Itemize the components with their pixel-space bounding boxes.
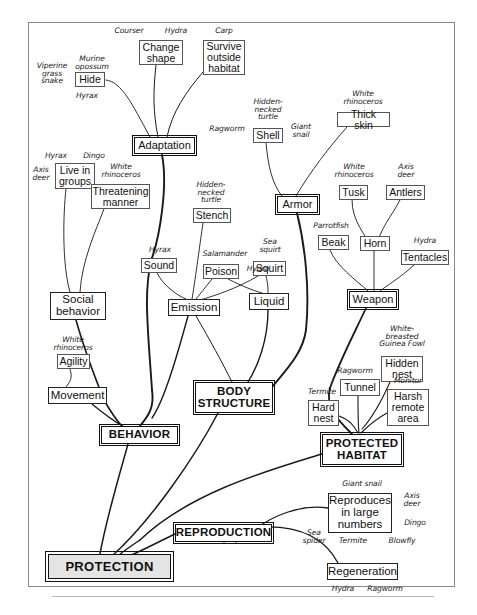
ann-hydra-tentacles: Hydra <box>407 237 443 245</box>
node-reproduces[interactable]: Reproduces in large numbers <box>328 493 392 533</box>
node-antlers[interactable]: Antlers <box>386 185 425 200</box>
ann-white-rhino-thick: White rhinoceros <box>332 90 394 105</box>
footer-divider <box>52 596 434 597</box>
ann-hyrax-sound: Hyrax <box>142 246 178 254</box>
node-adaptation[interactable]: Adaptation <box>134 137 195 154</box>
node-agility[interactable]: Agility <box>57 354 90 369</box>
ann-axis-deer-groups: Axis deer <box>28 166 54 181</box>
node-behavior[interactable]: BEHAVIOR <box>101 426 178 444</box>
ann-axis-deer-antlers: Axis deer <box>393 163 419 178</box>
node-regeneration[interactable]: Regeneration <box>327 563 398 580</box>
ann-giant-snail-rep: Giant snail <box>334 480 390 488</box>
ann-viperine: Viperine grass snake <box>32 62 72 85</box>
node-live-in-groups[interactable]: Live in groups <box>55 163 95 189</box>
ann-sea-spider: Sea spider <box>297 529 331 544</box>
ann-hydra-top: Hydra <box>158 27 194 35</box>
ann-dingo-rep: Dingo <box>397 519 433 527</box>
node-change-shape[interactable]: Change shape <box>139 40 183 65</box>
ann-ragworm-regen: Ragworm <box>361 585 409 593</box>
ann-hidden-necked-turtle-1: Hidden- necked turtle <box>245 98 291 121</box>
ann-ragworm-shell: Ragworm <box>203 125 251 133</box>
node-thick-skin[interactable]: Thick skin <box>337 112 390 127</box>
node-liquid[interactable]: Liquid <box>249 293 289 310</box>
ann-courser: Courser <box>108 27 150 35</box>
node-movement[interactable]: Movement <box>48 387 107 404</box>
node-beak[interactable]: Beak <box>318 235 349 250</box>
node-reproduction[interactable]: REPRODUCTION <box>175 524 272 542</box>
node-sound[interactable]: Sound <box>141 258 177 273</box>
ann-carp: Carp <box>208 27 240 35</box>
diagram-page: PROTECTIONBEHAVIORBODY STRUCTUREPROTECTE… <box>0 0 477 615</box>
ann-termite-hard: Termite <box>302 388 342 396</box>
node-emission[interactable]: Emission <box>168 299 220 316</box>
node-hide[interactable]: Hide <box>75 72 105 87</box>
node-hard-nest[interactable]: Hard nest <box>308 400 339 426</box>
ann-hyrax-hide: Hyrax <box>69 92 105 100</box>
ann-giant-snail-shell: Giant snail <box>285 123 317 138</box>
ann-blowfly: Blowfly <box>382 537 422 545</box>
ann-termite-rep: Termite <box>333 537 373 545</box>
node-tusk[interactable]: Tusk <box>339 185 368 200</box>
ann-white-rhino-agility: White rhinoceros <box>42 336 104 351</box>
ann-dingo-groups: Dingo <box>76 152 112 160</box>
node-shell[interactable]: Shell <box>253 128 283 143</box>
ann-parrotfish: Parrotfish <box>306 222 356 230</box>
ann-axis-deer-rep: Axis deer <box>398 492 426 507</box>
ann-hydra-poison: Hydra <box>240 265 276 273</box>
ann-white-rhino-threat: White rhinoceros <box>90 163 152 178</box>
node-protection[interactable]: PROTECTION <box>48 554 171 579</box>
node-body-structure[interactable]: BODY STRUCTURE <box>195 382 273 413</box>
ann-hydra-regen: Hydra <box>325 585 361 593</box>
node-threatening-manner[interactable]: Threatening manner <box>91 184 150 209</box>
node-stench[interactable]: Stench <box>193 208 231 223</box>
ann-monitor: Monitor <box>387 377 429 385</box>
ann-murine-opossum: Murine opossum <box>66 55 118 70</box>
ann-white-rhino-tusk: White rhinoceros <box>323 163 385 178</box>
node-armor[interactable]: Armor <box>277 196 318 213</box>
ann-hidden-necked-turtle-2: Hidden- necked turtle <box>188 181 234 204</box>
ann-salamander: Salamander <box>196 250 254 258</box>
node-survive-outside-habitat[interactable]: Survive outside habitat <box>203 40 245 75</box>
node-tunnel[interactable]: Tunnel <box>340 379 380 396</box>
node-tentacles[interactable]: Tentacles <box>401 250 449 265</box>
node-harsh-remote-area[interactable]: Harsh remote area <box>387 389 429 426</box>
node-social-behavior[interactable]: Social behavior <box>50 292 106 320</box>
node-weapon[interactable]: Weapon <box>349 291 397 308</box>
node-protected-habitat[interactable]: PROTECTED HABITAT <box>322 434 402 465</box>
node-horn[interactable]: Horn <box>360 236 390 251</box>
ann-white-breasted: White- breasted Guinea Fowl <box>367 325 437 348</box>
ann-ragworm-tunnel: Ragworm <box>331 367 379 375</box>
ann-hyrax-groups: Hyrax <box>38 152 74 160</box>
node-poison[interactable]: Poison <box>203 264 239 279</box>
ann-sea-squirt: Sea squirt <box>254 238 286 253</box>
